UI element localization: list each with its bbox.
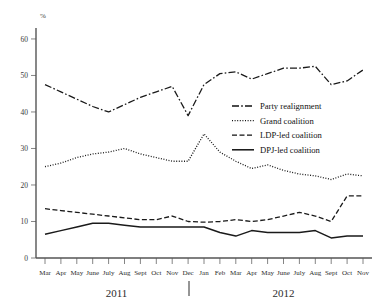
x-tick-label: Nov <box>357 269 370 277</box>
y-tick-label: 30 <box>21 144 29 153</box>
x-tick-label: Mar <box>39 269 51 277</box>
y-tick-label: 20 <box>21 181 29 190</box>
year-group-labels: 20112012 <box>106 287 295 299</box>
legend-label: LDP-led coalition <box>260 130 323 140</box>
x-tick-label: Oct <box>151 269 161 277</box>
chart-legend: Party realignmentGrand coalitionLDP-led … <box>232 101 323 155</box>
x-tick-label: Jan <box>199 269 209 277</box>
y-axis-unit-label: % <box>40 12 46 20</box>
x-tick-label: July <box>294 269 306 277</box>
x-tick-label: June <box>86 269 99 277</box>
x-tick-label: Aug <box>118 269 131 277</box>
legend-label: DPJ-led coalition <box>260 145 321 155</box>
chart-canvas: 0102030405060 % MarAprMayJuneJulyAugSept… <box>0 0 379 308</box>
x-tick-label: July <box>103 269 115 277</box>
y-tick-label: 40 <box>21 108 29 117</box>
year-label: 2012 <box>273 287 295 299</box>
year-label: 2011 <box>106 287 128 299</box>
x-tick-label: June <box>277 269 290 277</box>
series-line <box>45 223 363 238</box>
x-tick-label: Oct <box>342 269 352 277</box>
x-tick-label: Feb <box>215 269 226 277</box>
line-chart: 0102030405060 % MarAprMayJuneJulyAugSept… <box>0 0 379 308</box>
x-tick-label: May <box>70 269 83 277</box>
x-tick-label: Mar <box>230 269 242 277</box>
legend-label: Grand coalition <box>260 116 314 126</box>
x-tick-label: Sept <box>134 269 147 277</box>
y-tick-label: 10 <box>21 217 29 226</box>
x-tick-label: Apr <box>246 269 258 277</box>
series-line <box>45 134 363 180</box>
legend-label: Party realignment <box>260 101 322 111</box>
x-tick-label: Sept <box>325 269 338 277</box>
x-tick-label: Aug <box>309 269 322 277</box>
x-tick-label: Nov <box>166 269 179 277</box>
x-axis-labels: MarAprMayJuneJulyAugSeptOctNovDecJanFebM… <box>39 269 369 277</box>
x-tick-label: May <box>261 269 274 277</box>
y-axis-ticks: 0102030405060 <box>21 35 37 263</box>
x-axis-ticks <box>45 258 363 264</box>
y-tick-label: 50 <box>21 71 29 80</box>
y-tick-label: 60 <box>21 35 29 44</box>
x-tick-label: Dec <box>182 269 193 277</box>
x-tick-label: Apr <box>55 269 67 277</box>
series-line <box>45 196 363 222</box>
y-tick-label: 0 <box>24 254 28 263</box>
